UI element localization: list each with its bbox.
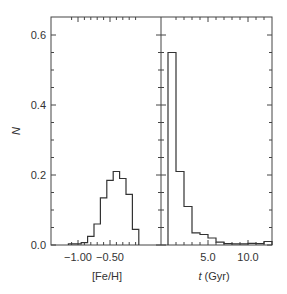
plot-frame [51,17,272,245]
right-x-axis-label: t(Gyr) [198,270,229,282]
y-tick-labels: 0.0 0.2 0.4 0.6 [31,29,46,251]
age-histogram [168,53,272,246]
histograms [68,53,272,246]
ytick-0: 0.0 [31,239,46,251]
feh-histogram [68,172,138,246]
xtick-5.0: 5.0 [200,251,215,263]
y-axis-label: N [10,127,22,135]
left-x-tick-labels: −1.00 −0.50 [64,251,124,263]
ytick-0.4: 0.4 [31,99,46,111]
ytick-0.2: 0.2 [31,169,46,181]
histogram-figure: 0.0 0.2 0.4 0.6 N −1.00 −0.50 [Fe/H] 5.0… [0,0,287,294]
xtick-10.0: 10.0 [237,251,258,263]
right-x-tick-labels: 5.0 10.0 [200,251,258,263]
xtick-minus-1.00: −1.00 [64,251,92,263]
xtick-minus-0.50: −0.50 [96,251,124,263]
left-x-axis-label: [Fe/H] [92,270,122,282]
ytick-0.6: 0.6 [31,29,46,41]
